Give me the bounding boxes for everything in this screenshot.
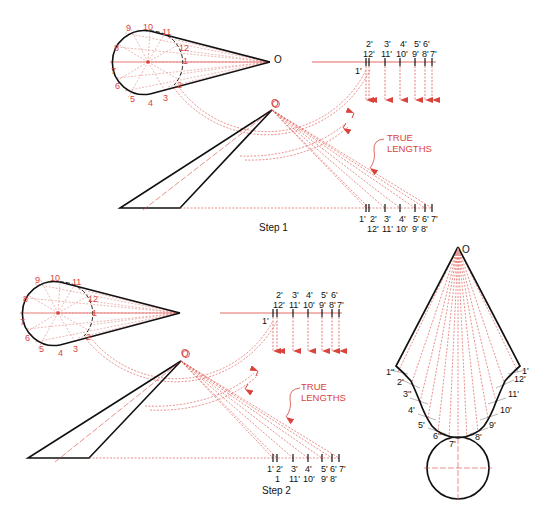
plan-point-label: 10	[50, 273, 60, 283]
step2-drawing: 1 2 3 4 5 6 7 8 9 10 11 12	[20, 273, 346, 496]
step2-elevation-apex-label: O	[181, 348, 189, 359]
scale-label: 1'	[262, 316, 269, 326]
scale-label: 5'	[413, 214, 420, 224]
scale-label: 11'	[289, 474, 300, 484]
step1-swing-arcs	[174, 70, 370, 160]
plan-point-label: 2	[177, 80, 182, 90]
scale-label: 5'	[321, 290, 328, 300]
scale-label: 1'	[355, 66, 362, 76]
scale-label: 7'	[431, 214, 438, 224]
plan-point-label: 6	[25, 333, 30, 343]
scale-label: 10'	[303, 300, 315, 310]
arc-arrow	[245, 384, 248, 389]
scale-label: 10'	[303, 474, 315, 484]
development-label: 7'	[449, 439, 456, 449]
development-label: 1''	[386, 367, 395, 377]
step1-true-lengths-annotation: TRUE LENGTHS	[370, 132, 432, 168]
arc-arrow	[352, 113, 354, 118]
development-label: 8'	[475, 432, 482, 442]
step2-top-scale: 2' 3' 4' 5' 6' 12' 11' 10' 9' 8' 7' 1'	[220, 290, 344, 351]
scale-label: 4'	[400, 39, 407, 49]
scale-label: 3'	[291, 464, 298, 474]
scale-label: 2'	[276, 464, 283, 474]
development-label: 2'	[397, 377, 404, 387]
development-label: 10'	[500, 405, 512, 415]
plan-point-label: 5	[130, 94, 135, 104]
plan-point-label: 7	[111, 66, 116, 76]
scale-label: 7'	[430, 49, 437, 59]
development-label: 9'	[489, 420, 496, 430]
development-apex-label: O	[462, 244, 470, 255]
plan-point-label: 11	[72, 277, 81, 287]
scale-label: 9'	[319, 300, 326, 310]
step2-elevation: O 1' 2' 3' 4' 5' 6' 7' 1 11' 10' 9' 8'	[28, 348, 346, 496]
scale-label: 2'	[370, 214, 377, 224]
plan-point-label: 4	[58, 348, 63, 358]
scale-label: 1	[275, 474, 280, 484]
step1-elevation-apex-label: O	[271, 98, 279, 109]
scale-label: 7'	[339, 464, 346, 474]
annotation-line: LENGTHS	[387, 143, 432, 154]
scale-label: 4'	[306, 290, 313, 300]
scale-label: 1'	[359, 214, 366, 224]
step2-caption: Step 2	[262, 485, 291, 496]
plan-point-label: 3	[163, 93, 168, 103]
annotation-line: TRUE	[387, 132, 413, 143]
development-label: 11'	[508, 389, 519, 399]
annotation-line: LENGTHS	[301, 392, 346, 403]
scale-label: 12'	[273, 300, 285, 310]
plan-point-label: 5	[39, 344, 44, 354]
scale-label: 12'	[367, 224, 379, 234]
scale-label: 6'	[330, 464, 337, 474]
plan-point-label: 8	[114, 43, 119, 53]
scale-label: 3'	[384, 39, 391, 49]
step2-swing-arcs	[86, 321, 277, 410]
development-pattern: O 1'' 2' 3'' 4' 5' 6'' 7' 1' 12' 11' 10'…	[386, 244, 529, 502]
scale-label: 9'	[412, 49, 419, 59]
development-label: 3''	[403, 389, 412, 399]
scale-label: 7'	[337, 300, 344, 310]
step1-plan-apex-label: O	[274, 54, 282, 65]
plan-point-label: 3	[73, 344, 78, 354]
scale-label: 4'	[305, 464, 312, 474]
plan-point-label: 1	[183, 56, 188, 66]
plan-point-label: 12	[179, 43, 189, 53]
plan-point-label: 12	[88, 294, 98, 304]
scale-label: 8'	[422, 49, 429, 59]
drawing-canvas: O 1 2 3 4 5 6 7 8 9 10 11 12	[0, 0, 550, 524]
plan-point-label: 9	[35, 275, 40, 285]
scale-label: 6'	[422, 214, 429, 224]
step2-plan-view: 1 2 3 4 5 6 7 8 9 10 11 12	[20, 273, 180, 358]
step1-elevation: O 1' 2' 3' 4' 5' 6' 7' 12' 11' 10' 9' 8'	[120, 98, 438, 234]
scale-label: 8'	[421, 224, 428, 234]
step1-caption: Step 1	[259, 222, 288, 233]
plan-point-label: 4	[148, 98, 153, 108]
plan-point-label: 10	[143, 22, 153, 32]
development-label: 4'	[408, 405, 415, 415]
scale-label: 2'	[366, 39, 373, 49]
scale-label: 5'	[414, 39, 421, 49]
scale-label: 6'	[423, 39, 430, 49]
annotation-line: TRUE	[301, 381, 327, 392]
plan-point-label: 7	[20, 317, 25, 327]
scale-label: 9'	[321, 474, 328, 484]
plan-point-label: 9	[126, 23, 131, 33]
scale-label: 1'	[267, 464, 274, 474]
development-label: 6''	[433, 431, 442, 441]
scale-label: 10'	[396, 224, 408, 234]
scale-label: 10'	[396, 49, 408, 59]
plan-point-label: 6	[115, 81, 120, 91]
scale-label: 12'	[363, 49, 375, 59]
scale-label: 6'	[331, 290, 338, 300]
scale-label: 11'	[382, 224, 393, 234]
step1-drawing: O 1 2 3 4 5 6 7 8 9 10 11 12	[110, 22, 438, 234]
scale-label: 9'	[412, 224, 419, 234]
step1-plan-view: O 1 2 3 4 5 6 7 8 9 10 11 12	[110, 22, 282, 108]
scale-label: 11'	[381, 49, 392, 59]
plan-point-label: 8	[23, 294, 28, 304]
scale-label: 8'	[330, 474, 337, 484]
scale-label: 11'	[289, 300, 300, 310]
development-label: 12'	[514, 374, 526, 384]
step2-true-lengths-annotation: TRUE LENGTHS	[286, 381, 346, 417]
scale-label: 4'	[399, 214, 406, 224]
